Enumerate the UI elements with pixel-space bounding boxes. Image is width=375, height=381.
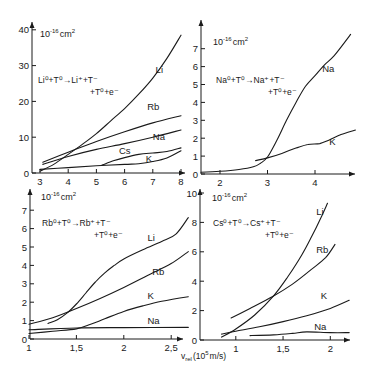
y-tick-label: 0 — [24, 168, 29, 179]
x-tick-label: 1 — [26, 342, 31, 353]
series-label-li: Li — [148, 232, 155, 243]
y-tick-label: 0 — [192, 335, 197, 346]
reaction-equation: Na⁰+T⁰→Na⁺+T⁻ — [216, 75, 285, 85]
y-tick-label: 6 — [22, 223, 27, 234]
y-arrow-icon — [199, 20, 204, 26]
x-tick-label: 4 — [312, 177, 317, 188]
x-tick-label: 2 — [217, 177, 222, 188]
y-tick-label: 2 — [193, 133, 198, 144]
curve-na — [201, 34, 351, 172]
series-label-k: K — [148, 290, 155, 301]
y-unit-label: 10-16cm2 — [40, 28, 76, 39]
reaction-equation: Li⁰+T⁰→Li⁺+T⁻ — [38, 75, 98, 85]
y-tick-label: 4 — [193, 97, 198, 108]
y-arrow-icon — [28, 189, 33, 195]
curve-li — [40, 35, 181, 171]
reaction-equation: Cs⁰+T⁰→Cs⁺+T⁻ — [213, 218, 281, 228]
x-tick-label: 2,5 — [165, 342, 178, 353]
curve-k — [40, 151, 181, 170]
x-tick-label: 1 — [233, 343, 238, 354]
reaction-equation-cont: +T⁰+e⁻ — [265, 230, 294, 240]
x-arrow-icon — [349, 172, 355, 177]
series-label-na: Na — [314, 321, 327, 332]
series-label-na: Na — [153, 131, 166, 142]
y-tick-label: 2 — [22, 297, 27, 308]
reaction-equation-cont: +T⁰+e⁻ — [90, 87, 119, 97]
x-arrow-icon — [177, 337, 183, 342]
y-tick-label: 6 — [192, 246, 197, 257]
series-label-rb: Rb — [152, 266, 164, 277]
series-label-k: K — [321, 290, 328, 301]
x-tick-label: 4 — [66, 176, 71, 187]
y-tick-label: 3 — [193, 115, 198, 126]
x-tick-label: 2 — [328, 343, 333, 354]
x-tick-label: 8 — [178, 176, 183, 187]
y-arrow-icon — [30, 22, 35, 28]
y-tick-label: 30 — [18, 60, 29, 71]
reaction-equation: Rb⁰+T⁰→Rb⁺+T⁻ — [42, 218, 111, 228]
curve-k — [222, 300, 350, 334]
x-tick-label: 1,5 — [70, 342, 83, 353]
x-axis-label: vrel(105m/s) — [181, 350, 226, 362]
panel-cs: 024681011,5210-16cm2Cs⁰+T⁰→Cs⁺+T⁻+T⁰+e⁻L… — [186, 188, 350, 355]
series-label-na: Na — [148, 315, 161, 326]
y-tick-label: 7 — [22, 205, 27, 216]
x-tick-label: 3 — [265, 177, 270, 188]
y-tick-label: 10 — [186, 188, 197, 199]
reaction-equation-cont: +T⁰+e⁻ — [268, 87, 297, 97]
y-tick-label: 3 — [22, 278, 27, 289]
series-label-k: K — [146, 153, 153, 164]
y-tick-label: 0 — [193, 169, 198, 180]
series-label-rb: Rb — [147, 101, 159, 112]
y-tick-label: 20 — [18, 96, 29, 107]
curve-na — [250, 332, 349, 336]
y-tick-label: 7 — [193, 43, 198, 54]
series-label-cs: Cs — [119, 145, 131, 156]
y-unit-label: 10-16cm2 — [213, 36, 249, 47]
series-label-li: Li — [316, 206, 323, 217]
y-tick-label: 40 — [18, 24, 29, 35]
y-tick-label: 1 — [193, 151, 198, 162]
reaction-equation-cont: +T⁰+e⁻ — [94, 230, 123, 240]
x-arrow-icon — [179, 171, 185, 176]
y-tick-label: 8 — [192, 217, 197, 228]
y-tick-label: 2 — [192, 305, 197, 316]
curve-k — [256, 130, 356, 161]
series-label-rb: Rb — [316, 244, 328, 255]
x-arrow-icon — [344, 338, 350, 343]
panel-rb: 0123456711,522,510-16cm2Rb⁰+T⁰→Rb⁺+T⁻+T⁰… — [22, 189, 189, 353]
curve-na — [29, 327, 188, 329]
figure: 01020304034567810-16cm2Li⁰+T⁰→Li⁺+T⁻+T⁰+… — [0, 0, 375, 381]
y-tick-label: 4 — [192, 276, 197, 287]
x-tick-label: 3 — [37, 176, 42, 187]
x-tick-label: 1,5 — [276, 343, 289, 354]
x-tick-label: 5 — [94, 176, 99, 187]
series-label-li: Li — [156, 64, 163, 75]
y-arrow-icon — [198, 189, 203, 195]
y-tick-label: 6 — [193, 61, 198, 72]
y-unit-label: 10-16cm2 — [41, 191, 77, 202]
curve-rb — [29, 252, 188, 325]
panel-na: 0123456723410-16cm2Na⁰+T⁰→Na⁺+T⁻+T⁰+e⁻Na… — [193, 20, 356, 188]
y-tick-label: 5 — [193, 79, 198, 90]
series-label-na: Na — [322, 63, 335, 74]
x-tick-label: 7 — [150, 176, 155, 187]
svg-text:vrel(105m/s): vrel(105m/s) — [181, 350, 226, 362]
curve-rb — [231, 244, 335, 318]
x-tick-label: 6 — [122, 176, 127, 187]
series-label-k: K — [329, 136, 336, 147]
y-unit-label: 10-16cm2 — [212, 192, 248, 203]
y-tick-label: 10 — [18, 132, 29, 143]
y-tick-label: 1 — [22, 315, 27, 326]
y-tick-label: 5 — [22, 242, 27, 253]
y-tick-label: 4 — [22, 260, 27, 271]
panel-li: 01020304034567810-16cm2Li⁰+T⁰→Li⁺+T⁻+T⁰+… — [18, 22, 185, 187]
x-tick-label: 2 — [121, 342, 126, 353]
